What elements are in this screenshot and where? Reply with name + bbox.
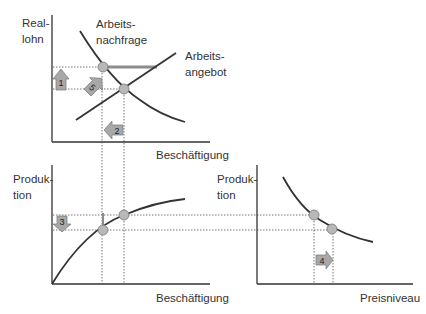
arrow-5-down-right-icon: 5 <box>81 72 108 99</box>
point-price-high <box>327 224 337 234</box>
arrow-1-up-icon: 1 <box>53 69 69 90</box>
production-function-curve <box>52 199 185 284</box>
svg-text:1: 1 <box>58 78 63 88</box>
point-high-wage <box>98 62 108 72</box>
top-x-axis-label: Beschäftigung <box>156 148 229 162</box>
svg-text:4: 4 <box>319 256 324 266</box>
bottom-left-y-axis-label-line1: Produk- <box>13 172 53 186</box>
supply-label-line1: Arbeits- <box>185 49 225 63</box>
bottom-right-y-axis-label-line1: Produk- <box>217 172 257 186</box>
bottom-left-y-axis-label-line2: tion <box>13 188 32 202</box>
svg-text:3: 3 <box>59 217 64 227</box>
svg-text:2: 2 <box>114 126 119 136</box>
point-production-high <box>119 210 129 220</box>
arrow-2-left-icon: 2 <box>104 121 123 139</box>
arrow-4-right-icon: 4 <box>316 251 333 269</box>
supply-label-line2: angebot <box>185 65 227 79</box>
bottom-right-chart: 4 <box>257 165 413 284</box>
demand-label-line2: nachfrage <box>96 33 147 47</box>
bottom-left-x-axis-label: Beschäftigung <box>156 291 229 305</box>
demand-label-line1: Arbeits- <box>96 17 136 31</box>
top-y-axis-label-line1: Real- <box>22 16 49 30</box>
bottom-left-chart: 3 <box>52 165 332 284</box>
bottom-right-y-axis-label-line2: tion <box>217 188 236 202</box>
point-production-low <box>98 225 108 235</box>
bottom-right-x-axis-label: Preisniveau <box>360 291 420 305</box>
top-y-axis-label-line2: lohn <box>22 32 44 46</box>
point-price-low <box>309 210 319 220</box>
point-equilibrium <box>119 84 129 94</box>
